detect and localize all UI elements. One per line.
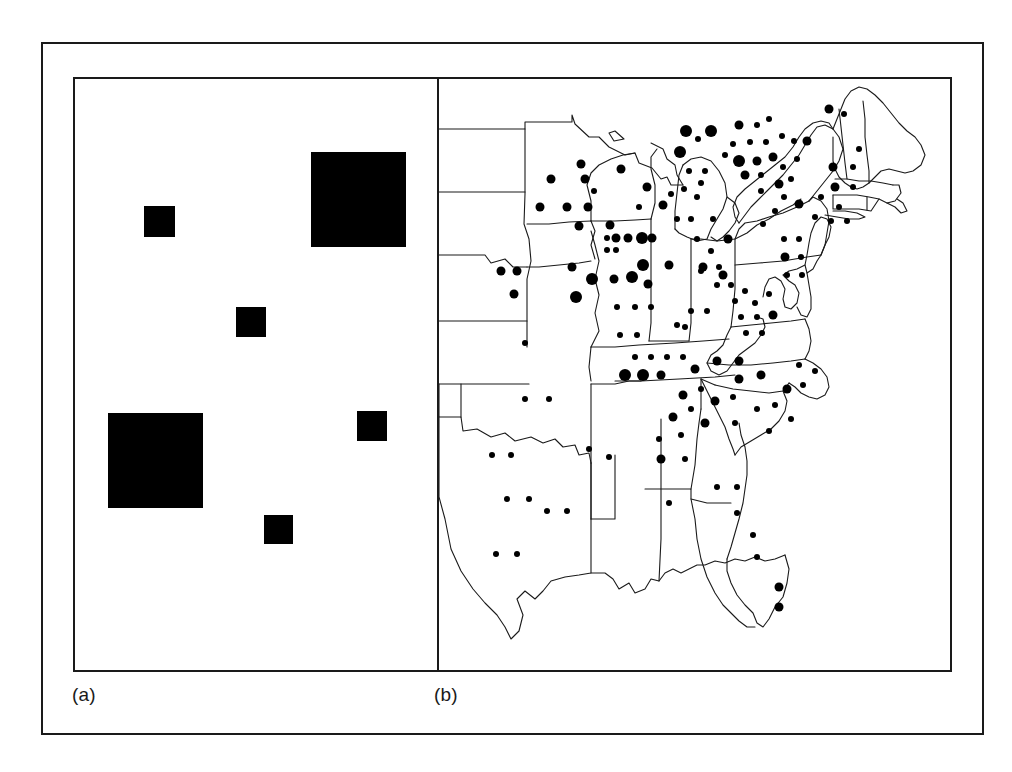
map-dot: [812, 368, 818, 374]
map-dot: [799, 272, 805, 278]
map-dot: [825, 105, 834, 114]
map-dot: [688, 406, 694, 412]
map-dot: [695, 136, 701, 142]
map-dot: [682, 324, 688, 330]
map-dot: [668, 191, 674, 197]
map-dot: [829, 163, 838, 172]
map-dot: [617, 165, 626, 174]
panel-a-square: [144, 206, 175, 237]
map-dot: [831, 183, 840, 192]
map-dot: [752, 300, 758, 306]
map-dot: [644, 280, 653, 289]
map-dot: [769, 153, 778, 162]
map-dot: [758, 172, 764, 178]
map-dot: [513, 267, 522, 276]
map-dot: [489, 452, 495, 458]
map-dot: [591, 188, 597, 194]
map-dot: [617, 332, 623, 338]
map-dot: [619, 369, 631, 381]
map-dot: [734, 484, 740, 490]
map-dot: [818, 194, 824, 200]
map-dot: [674, 146, 686, 158]
map-dot: [632, 354, 638, 360]
map-dot: [686, 168, 692, 174]
map-dot: [669, 413, 678, 422]
map-dot: [742, 288, 748, 294]
panel-a-square: [236, 307, 266, 337]
panel-a-square: [108, 413, 203, 508]
map-dot: [698, 180, 704, 186]
map-dot: [612, 234, 621, 243]
map-dot: [564, 508, 570, 514]
map-dot: [508, 452, 514, 458]
map-dot: [568, 263, 577, 272]
map-dot: [795, 200, 804, 209]
map-dot: [796, 236, 802, 242]
map-dot: [781, 194, 787, 200]
panel-a-square: [357, 411, 387, 441]
map-dot: [681, 186, 687, 192]
map-dot: [694, 236, 700, 242]
map-dot: [803, 137, 812, 146]
map-dot: [844, 218, 850, 224]
map-dot: [586, 446, 592, 452]
map-dot: [657, 371, 666, 380]
map-dot: [547, 175, 556, 184]
panel-a-caption: (a): [72, 684, 96, 706]
map-dot: [828, 218, 834, 224]
map-dot: [497, 267, 506, 276]
map-dot: [850, 184, 856, 190]
map-dot: [730, 141, 736, 147]
map-dot: [738, 314, 744, 320]
map-dot: [577, 160, 586, 169]
map-dot: [713, 357, 722, 366]
map-dot: [763, 139, 769, 145]
map-dot: [659, 201, 668, 210]
map-dot: [624, 234, 633, 243]
map-dot: [714, 484, 720, 490]
map-dot: [610, 275, 619, 284]
map-dot: [759, 330, 765, 336]
map-dot: [636, 204, 642, 210]
map-dot: [733, 155, 745, 167]
map-dot: [722, 152, 728, 158]
map-dot: [648, 354, 654, 360]
map-dot: [493, 551, 499, 557]
map-dot: [714, 282, 720, 288]
map-dot: [788, 416, 794, 422]
map-dot: [680, 354, 686, 360]
map-dot: [766, 428, 772, 434]
panel-a-schematic: [75, 79, 437, 670]
map-dot: [772, 402, 778, 408]
map-dot: [781, 236, 787, 242]
map-dot: [665, 261, 674, 270]
map-dot: [760, 221, 766, 227]
map-dot: [604, 247, 610, 253]
map-dot: [769, 311, 778, 320]
map-dot: [704, 308, 710, 314]
map-dot: [754, 406, 760, 412]
panel-b-map: [439, 79, 952, 670]
map-dot: [526, 496, 532, 502]
map-dot: [637, 259, 649, 271]
map-dot: [743, 330, 749, 336]
map-dot: [664, 354, 670, 360]
map-dot: [775, 583, 784, 592]
map-dot: [504, 496, 510, 502]
map-dot: [753, 157, 762, 166]
map-dot: [741, 171, 750, 180]
map-dot: [708, 248, 714, 254]
map-dot: [678, 432, 684, 438]
map-dot: [586, 273, 598, 285]
map-dot: [791, 138, 797, 144]
map-dot: [794, 156, 800, 162]
map-dot: [604, 235, 610, 241]
map-dot: [701, 419, 710, 428]
map-dot: [710, 216, 716, 222]
us-map-svg: [439, 79, 952, 670]
map-dot: [754, 122, 760, 128]
map-dot: [674, 322, 680, 328]
map-dot: [699, 263, 708, 272]
map-dot: [575, 222, 584, 231]
map-dot: [536, 203, 545, 212]
